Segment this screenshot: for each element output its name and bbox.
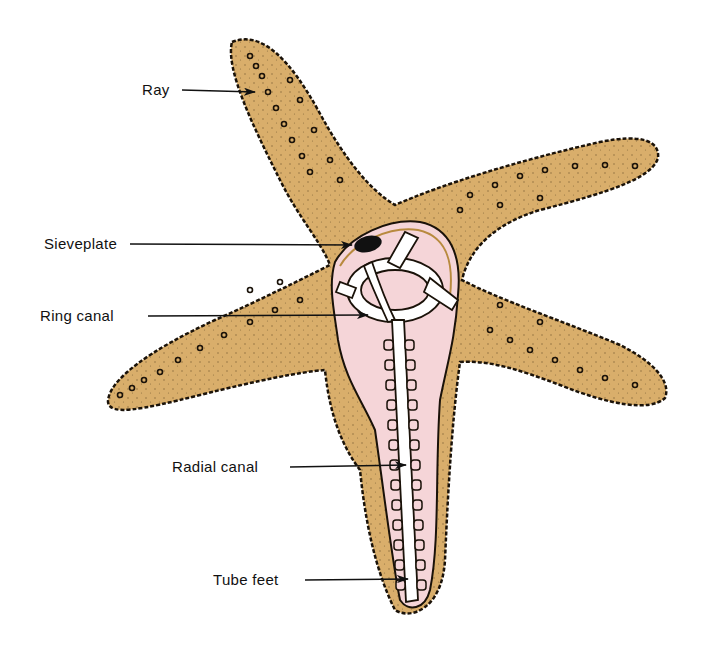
starfish-body: [108, 39, 666, 613]
tube-feet-arrow: [305, 579, 408, 580]
ring-canal-arrow: [148, 315, 368, 316]
label-sieveplate: Sieveplate: [44, 235, 117, 253]
label-radial-canal: Radial canal: [172, 458, 258, 476]
sieveplate-arrow: [130, 244, 352, 245]
label-ring-canal: Ring canal: [40, 307, 114, 325]
label-ray: Ray: [142, 81, 170, 99]
label-tube-feet: Tube feet: [213, 571, 279, 589]
